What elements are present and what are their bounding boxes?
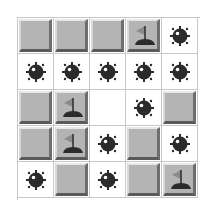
cell-4-1-covered[interactable] [54, 162, 90, 198]
covered-tile [55, 163, 88, 196]
cell-0-4-mine[interactable] [162, 18, 198, 54]
cell-2-1-flag[interactable] [54, 90, 90, 126]
cell-2-4-covered[interactable] [162, 90, 198, 126]
mine-icon [59, 59, 85, 85]
cell-1-1-mine[interactable] [54, 54, 90, 90]
flag-icon [166, 166, 194, 194]
covered-tile [163, 91, 196, 124]
cell-2-3-mine[interactable] [126, 90, 162, 126]
cell-3-0-covered[interactable] [18, 126, 54, 162]
flag-icon [130, 22, 158, 50]
cell-4-4-flag[interactable] [162, 162, 198, 198]
cell-0-2-covered[interactable] [90, 18, 126, 54]
cell-1-4-mine[interactable] [162, 54, 198, 90]
cell-3-1-flag[interactable] [54, 126, 90, 162]
cell-2-0-covered[interactable] [18, 90, 54, 126]
mine-icon [95, 167, 121, 193]
mine-icon [95, 59, 121, 85]
mine-icon [23, 59, 49, 85]
mine-icon [131, 95, 157, 121]
covered-tile [127, 163, 160, 196]
cell-4-3-covered[interactable] [126, 162, 162, 198]
mine-icon [95, 131, 121, 157]
cell-2-2-empty[interactable] [90, 90, 126, 126]
cell-4-2-mine[interactable] [90, 162, 126, 198]
cell-1-3-mine[interactable] [126, 54, 162, 90]
flag-icon [58, 94, 86, 122]
cell-1-0-mine[interactable] [18, 54, 54, 90]
covered-tile [91, 19, 124, 52]
cell-0-0-covered[interactable] [18, 18, 54, 54]
minesweeper-board [17, 17, 200, 200]
cell-3-3-covered[interactable] [126, 126, 162, 162]
cell-3-2-mine[interactable] [90, 126, 126, 162]
covered-tile [19, 19, 52, 52]
flag-icon [58, 130, 86, 158]
cell-3-4-mine[interactable] [162, 126, 198, 162]
cell-4-0-mine[interactable] [18, 162, 54, 198]
covered-tile [19, 91, 52, 124]
mine-icon [167, 59, 193, 85]
covered-tile [19, 127, 52, 160]
covered-tile [55, 19, 88, 52]
mine-icon [23, 167, 49, 193]
cell-1-2-mine[interactable] [90, 54, 126, 90]
mine-icon [167, 131, 193, 157]
covered-tile [127, 127, 160, 160]
mine-icon [131, 59, 157, 85]
cell-0-3-flag[interactable] [126, 18, 162, 54]
mine-icon [167, 23, 193, 49]
cell-0-1-covered[interactable] [54, 18, 90, 54]
